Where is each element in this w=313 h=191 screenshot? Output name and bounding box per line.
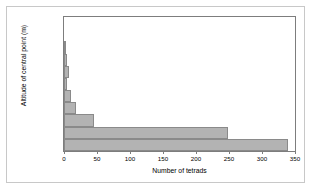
x-axis-title: Number of tetrads — [63, 167, 296, 174]
x-axis-tick-mark — [97, 151, 98, 154]
figure-frame: 501-550451-500401-450351-400301-350251-3… — [6, 6, 305, 183]
x-axis-tick-mark — [295, 151, 296, 154]
bar — [64, 114, 94, 126]
x-axis-tick-mark — [196, 151, 197, 154]
bar — [64, 90, 71, 102]
x-axis-tick-mark — [64, 151, 65, 154]
bar — [64, 102, 76, 114]
x-axis-tick-label: 50 — [94, 155, 101, 162]
x-axis-tick-label: 200 — [191, 155, 201, 162]
y-axis-title: Altitude of central point (m) — [20, 0, 27, 134]
plot-frame: 501-550451-500401-450351-400301-350251-3… — [63, 16, 296, 152]
x-axis-tick-mark — [130, 151, 131, 154]
x-axis-tick-label: 250 — [224, 155, 234, 162]
bar — [64, 54, 67, 66]
bar — [64, 78, 67, 90]
bar — [64, 139, 288, 151]
x-axis-tick-label: 150 — [158, 155, 168, 162]
x-axis-tick-label: 350 — [290, 155, 300, 162]
x-axis-tick-label: 0 — [62, 155, 65, 162]
x-axis-tick-mark — [229, 151, 230, 154]
bar — [64, 41, 66, 53]
plot-area: 501-550451-500401-450351-400301-350251-3… — [64, 17, 295, 151]
x-axis-tick-label: 100 — [125, 155, 135, 162]
bar — [64, 127, 228, 139]
x-axis-tick-mark — [262, 151, 263, 154]
x-axis-tick-mark — [163, 151, 164, 154]
x-axis-tick-label: 300 — [257, 155, 267, 162]
bar — [64, 66, 69, 78]
